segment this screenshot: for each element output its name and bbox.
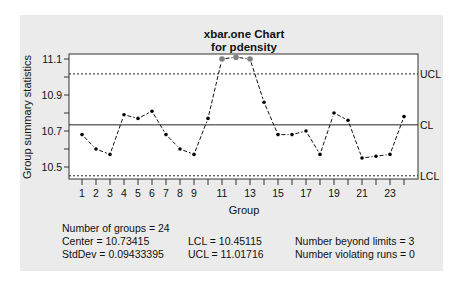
data-point — [122, 113, 126, 117]
data-point — [178, 147, 182, 151]
x-axis: 12345678911131517192123 — [79, 179, 404, 199]
data-point — [318, 153, 322, 157]
data-point — [206, 117, 210, 121]
violation-point — [247, 56, 253, 62]
x-tick-label: 11 — [217, 187, 228, 199]
y-tick-label: 10.5 — [42, 161, 63, 173]
control-label-ucl: UCL — [420, 68, 441, 80]
stat-violating-runs: Number violating runs = 0 — [295, 248, 415, 260]
stat-center: Center = 10.73415 — [62, 235, 149, 247]
x-tick-label: 17 — [300, 187, 312, 199]
x-tick-label: 1 — [79, 187, 85, 199]
x-tick-label: 21 — [356, 187, 368, 199]
x-tick-label: 19 — [328, 187, 340, 199]
x-tick-label: 15 — [272, 187, 284, 199]
y-axis: 10.510.710.911.1 — [42, 53, 69, 173]
x-tick-label: 5 — [135, 187, 141, 199]
y-axis-label: Group summary statistics — [21, 54, 33, 179]
y-tick-label: 10.7 — [42, 125, 63, 137]
x-tick-label: 6 — [149, 187, 155, 199]
data-point — [276, 133, 280, 137]
x-tick-label: 13 — [244, 187, 256, 199]
x-tick-label: 2 — [93, 187, 99, 199]
stat-stddev: StdDev = 0.09433395 — [62, 248, 164, 260]
data-point — [164, 133, 168, 137]
stat-groups: Number of groups = 24 — [62, 222, 170, 234]
x-tick-label: 3 — [107, 187, 113, 199]
data-point — [290, 133, 294, 137]
data-point — [374, 154, 378, 158]
stat-ucl: UCL = 11.01716 — [188, 248, 264, 260]
x-tick-label: 23 — [384, 187, 396, 199]
violation-point — [219, 56, 225, 62]
control-label-lcl: LCL — [420, 170, 439, 182]
stat-beyond-limits: Number beyond limits = 3 — [295, 235, 414, 247]
x-tick-label: 4 — [121, 187, 127, 199]
data-point — [136, 117, 140, 121]
violation-point — [233, 54, 239, 60]
data-point — [304, 129, 308, 133]
x-tick-label: 9 — [191, 187, 197, 199]
x-tick-label: 7 — [163, 187, 169, 199]
y-tick-label: 10.9 — [42, 89, 63, 101]
data-point — [388, 153, 392, 157]
data-point — [360, 156, 364, 160]
chart-subtitle: for pdensity — [211, 41, 277, 53]
data-point — [346, 118, 350, 122]
control-label-cl: CL — [420, 119, 434, 131]
x-axis-label: Group — [229, 204, 260, 216]
plot-area — [69, 54, 418, 179]
y-tick-label: 11.1 — [42, 53, 62, 65]
chart-title: xbar.one Chart — [204, 28, 285, 40]
data-point — [94, 147, 98, 151]
stat-lcl: LCL = 10.45115 — [188, 235, 262, 247]
data-point — [150, 109, 154, 113]
data-point — [332, 111, 336, 115]
data-point — [402, 115, 406, 119]
data-point — [80, 133, 84, 137]
x-tick-label: 8 — [177, 187, 183, 199]
data-point — [108, 153, 112, 157]
data-point — [192, 153, 196, 157]
data-point — [262, 100, 266, 104]
